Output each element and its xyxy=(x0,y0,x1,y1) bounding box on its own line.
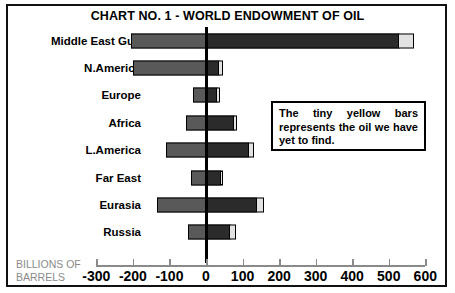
bar-segment-produced xyxy=(188,225,206,240)
bar-segment-produced xyxy=(133,60,206,75)
category-label: Eurasia xyxy=(99,199,141,211)
chart-row: Middle East Gulf xyxy=(0,27,455,54)
category-label: Russia xyxy=(103,226,141,238)
x-axis-tick-label: 200 xyxy=(267,268,290,284)
category-label: Europe xyxy=(101,89,141,101)
x-axis-tick-label: -100 xyxy=(155,268,183,284)
bar-segment-yet-to-find xyxy=(218,60,222,75)
x-axis-title-line-2: BARRELS xyxy=(16,271,81,284)
chart-row: Far East xyxy=(0,164,455,191)
zero-axis-line xyxy=(205,27,208,263)
bar-segment-yet-to-find xyxy=(233,115,237,130)
bar-segment-produced xyxy=(186,115,206,130)
x-axis-tick xyxy=(389,259,391,266)
x-axis-tick xyxy=(243,259,245,266)
bar-segment-yet-to-find xyxy=(220,170,223,185)
bar-segment-produced xyxy=(166,143,206,158)
bar-segment-proven xyxy=(206,197,257,212)
x-axis-tick-label: 400 xyxy=(341,268,364,284)
x-axis-tick xyxy=(279,259,281,266)
bar-segment-yet-to-find xyxy=(216,88,220,103)
bar-segment-proven xyxy=(206,225,231,240)
bar-segment-yet-to-find xyxy=(256,197,264,212)
x-axis-tick xyxy=(206,259,208,266)
chart-title: CHART NO. 1 - WORLD ENDOWMENT OF OIL xyxy=(0,9,455,23)
bar-segment-proven xyxy=(206,33,400,48)
bar-segment-produced xyxy=(131,33,206,48)
x-axis-tick xyxy=(425,259,427,266)
bar-segment-proven xyxy=(206,143,249,158)
bar-segment-yet-to-find xyxy=(398,33,414,48)
x-axis-tick-label: 600 xyxy=(414,268,437,284)
x-axis-tick xyxy=(352,259,354,266)
x-axis-title-line-1: BILLIONS OF xyxy=(16,258,81,271)
chart-row: N.America xyxy=(0,54,455,81)
chart-screenshot: CHART NO. 1 - WORLD ENDOWMENT OF OIL Mid… xyxy=(0,0,455,293)
x-axis-tick xyxy=(316,259,318,266)
category-label: Middle East Gulf xyxy=(51,35,141,47)
x-axis-title: BILLIONS OF BARRELS xyxy=(16,258,81,284)
x-axis-tick xyxy=(169,259,171,266)
category-label: Africa xyxy=(108,117,141,129)
x-axis-tick-label: 500 xyxy=(377,268,400,284)
category-label: L.America xyxy=(85,144,141,156)
x-axis-tick-label: -200 xyxy=(119,268,147,284)
x-axis-tick-label: -300 xyxy=(82,268,110,284)
bar-segment-produced xyxy=(191,170,206,185)
annotation-callout: The tiny yellow bars represents the oil … xyxy=(271,101,426,151)
bar-segment-yet-to-find xyxy=(229,225,236,240)
x-axis-tick-label: 0 xyxy=(202,268,210,284)
chart-row: Russia xyxy=(0,219,455,246)
x-axis-tick-label: 100 xyxy=(231,268,254,284)
x-axis-tick xyxy=(96,259,98,266)
x-axis-ruler xyxy=(96,265,425,267)
x-axis-tick xyxy=(133,259,135,266)
bar-segment-proven xyxy=(206,115,235,130)
x-axis-tick-label: 300 xyxy=(304,268,327,284)
category-label: Far East xyxy=(96,172,141,184)
chart-row: Eurasia xyxy=(0,191,455,218)
bar-segment-yet-to-find xyxy=(248,143,255,158)
bar-segment-produced xyxy=(157,197,206,212)
